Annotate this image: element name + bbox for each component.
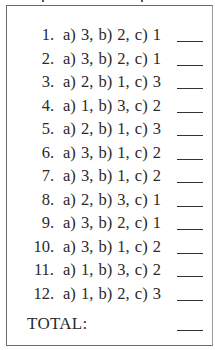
score-blank[interactable]: [177, 88, 203, 89]
answer-points: a) 3, b) 2, c) 1: [63, 24, 161, 46]
question-number: 5.: [42, 118, 54, 140]
score-blank[interactable]: [177, 229, 203, 230]
answer-key-box: 1. a) 3, b) 2, c) 1 2. a) 3, b) 2, c) 1 …: [6, 5, 213, 346]
answer-row-9: 9. a) 3, b) 2, c) 1: [7, 212, 214, 234]
question-number: 10.: [33, 236, 54, 258]
total-label: TOTAL:: [27, 313, 88, 335]
answer-points: a) 2, b) 1, c) 3: [63, 118, 161, 140]
score-blank[interactable]: [177, 112, 203, 113]
answer-row-1: 1. a) 3, b) 2, c) 1: [7, 24, 214, 46]
answer-points: a) 1, b) 3, c) 2: [63, 259, 161, 281]
answer-points: a) 3, b) 2, c) 1: [63, 48, 161, 70]
question-number: 2.: [42, 48, 54, 70]
answer-points: a) 3, b) 1, c) 2: [63, 236, 161, 258]
score-blank[interactable]: [177, 135, 203, 136]
answer-points: a) 1, b) 2, c) 3: [63, 283, 161, 305]
total-row: TOTAL:: [7, 313, 214, 335]
question-number: 7.: [42, 165, 54, 187]
total-score-blank[interactable]: [177, 330, 203, 331]
score-blank[interactable]: [177, 276, 203, 277]
answer-row-4: 4. a) 1, b) 3, c) 2: [7, 95, 214, 117]
answer-points: a) 3, b) 1, c) 2: [63, 165, 161, 187]
answer-points: a) 3, b) 2, c) 1: [63, 212, 161, 234]
answer-row-11: 11. a) 1, b) 3, c) 2: [7, 259, 214, 281]
answer-row-6: 6. a) 3, b) 1, c) 2: [7, 142, 214, 164]
answer-row-12: 12. a) 1, b) 2, c) 3: [7, 283, 214, 305]
answer-points: a) 2, b) 1, c) 3: [63, 71, 161, 93]
answer-row-5: 5. a) 2, b) 1, c) 3: [7, 118, 214, 140]
question-number: 8.: [42, 189, 54, 211]
score-blank[interactable]: [177, 206, 203, 207]
answer-row-2: 2. a) 3, b) 2, c) 1: [7, 48, 214, 70]
answer-points: a) 2, b) 3, c) 1: [63, 189, 161, 211]
score-blank[interactable]: [177, 41, 203, 42]
question-number: 6.: [42, 142, 54, 164]
question-number: 3.: [42, 71, 54, 93]
question-number: 11.: [34, 259, 54, 281]
answer-row-10: 10. a) 3, b) 1, c) 2: [7, 236, 214, 258]
score-blank[interactable]: [177, 253, 203, 254]
answer-points: a) 3, b) 1, c) 2: [63, 142, 161, 164]
question-number: 1.: [42, 24, 54, 46]
question-number: 4.: [42, 95, 54, 117]
answer-points: a) 1, b) 3, c) 2: [63, 95, 161, 117]
answer-row-8: 8. a) 2, b) 3, c) 1: [7, 189, 214, 211]
question-number: 9.: [42, 212, 54, 234]
question-number: 12.: [33, 283, 54, 305]
answer-row-3: 3. a) 2, b) 1, c) 3: [7, 71, 214, 93]
cropped-text-fragments: [0, 0, 215, 3]
score-blank[interactable]: [177, 159, 203, 160]
score-blank[interactable]: [177, 182, 203, 183]
score-blank[interactable]: [177, 300, 203, 301]
score-blank[interactable]: [177, 65, 203, 66]
answer-row-7: 7. a) 3, b) 1, c) 2: [7, 165, 214, 187]
